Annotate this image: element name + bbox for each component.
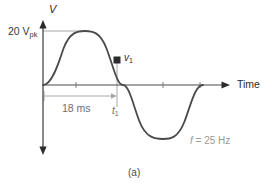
sine-waveform-figure: V Time 20 Vpk v1 18 ms t1 f = 25 Hz (a) [0, 0, 275, 189]
time-marker-label: t1 [112, 106, 119, 116]
time-interval-label: 18 ms [62, 103, 91, 114]
frequency-value: = 25 Hz [193, 135, 231, 146]
instantaneous-voltage-label: v1 [124, 53, 133, 63]
peak-voltage-value: 20 V [8, 25, 30, 37]
waveform-plot [0, 0, 275, 189]
interval-arrowhead-right [111, 93, 117, 99]
peak-voltage-label: 20 Vpk [8, 26, 38, 37]
y-axis-label: V [49, 4, 56, 15]
y-axis-arrowhead-down [39, 147, 46, 156]
frequency-label: f = 25 Hz [190, 136, 230, 146]
peak-voltage-subscript: pk [30, 30, 38, 39]
x-axis-label: Time [237, 79, 260, 90]
time-marker-subscript: 1 [115, 110, 119, 117]
v1-point-marker [114, 57, 121, 64]
y-axis-arrowhead-up [39, 20, 46, 29]
figure-caption: (a) [128, 168, 140, 178]
x-axis-arrowhead-right [222, 82, 231, 89]
instantaneous-voltage-subscript: 1 [129, 57, 133, 64]
